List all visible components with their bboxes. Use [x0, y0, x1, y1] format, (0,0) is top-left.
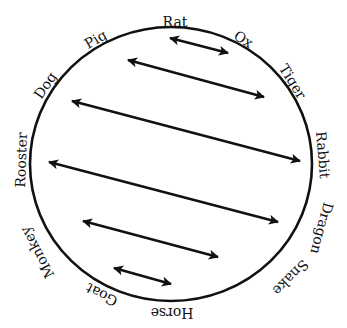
- label-group: RatOxTigerRabbitDragonSnakeHorseGoatMonk…: [12, 14, 336, 321]
- label-rat: Rat: [163, 14, 188, 30]
- label-horse: Horse: [151, 305, 194, 321]
- arrow-group: [49, 38, 300, 284]
- double-arrow-goat-horse: [114, 268, 171, 284]
- double-arrow-rat-ox: [170, 38, 228, 53]
- double-arrow-monkey-snake: [83, 221, 218, 257]
- label-snake: Snake: [270, 257, 312, 299]
- label-monkey: Monkey: [17, 224, 58, 281]
- label-ox: Ox: [231, 27, 256, 51]
- double-arrow-pig-tiger: [128, 60, 264, 97]
- double-arrow-rooster-dragon: [49, 162, 278, 222]
- zodiac-diagram: RatOxTigerRabbitDragonSnakeHorseGoatMonk…: [0, 0, 347, 328]
- zodiac-circle: [30, 27, 312, 301]
- label-rooster: Rooster: [12, 132, 30, 188]
- label-rabbit: Rabbit: [313, 131, 333, 180]
- label-pig: Pig: [82, 26, 110, 51]
- double-arrow-dog-rabbit: [72, 101, 300, 161]
- diagram-canvas: RatOxTigerRabbitDragonSnakeHorseGoatMonk…: [0, 0, 347, 328]
- label-tiger: Tiger: [276, 61, 310, 102]
- label-dragon: Dragon: [307, 201, 336, 256]
